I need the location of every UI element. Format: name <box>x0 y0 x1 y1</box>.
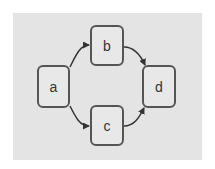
node-b[interactable]: b <box>90 25 124 66</box>
edge-b-to-d <box>124 47 145 65</box>
node-d-label: d <box>155 79 163 95</box>
node-b-label: b <box>103 38 111 54</box>
node-c-label: c <box>104 118 111 134</box>
node-d[interactable]: d <box>142 65 176 108</box>
edge-a-to-b <box>70 45 89 67</box>
edge-c-to-d <box>124 108 144 126</box>
edge-a-to-c <box>70 106 89 126</box>
node-a[interactable]: a <box>37 65 70 108</box>
node-c[interactable]: c <box>90 105 124 146</box>
node-a-label: a <box>50 79 58 95</box>
